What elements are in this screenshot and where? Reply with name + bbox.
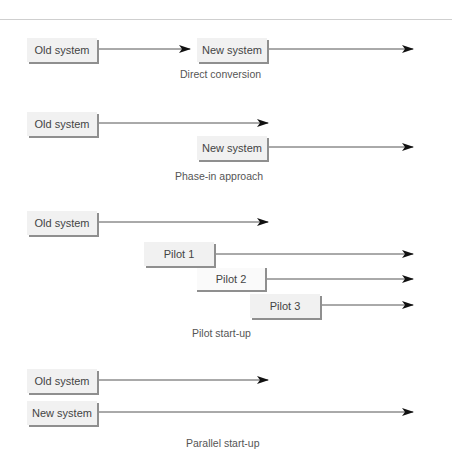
box-label: Old system — [34, 217, 89, 229]
new-system-box: New system — [27, 401, 97, 425]
caption-parallel-start-up: Parallel start-up — [186, 437, 260, 449]
new-system-box: New system — [197, 38, 267, 62]
box-label: Pilot 2 — [216, 273, 247, 285]
box-label: New system — [32, 407, 92, 419]
caption-pilot-start-up: Pilot start-up — [192, 327, 251, 339]
caption-direct-conversion: Direct conversion — [180, 68, 261, 80]
caption-phase-in-approach: Phase-in approach — [175, 170, 263, 182]
old-system-box: Old system — [27, 112, 97, 136]
old-system-box: Old system — [27, 369, 97, 393]
pilot-2-box: Pilot 2 — [197, 268, 267, 292]
pilot-3-box: Pilot 3 — [250, 294, 320, 318]
box-label: Old system — [34, 118, 89, 130]
box-label: Old system — [34, 375, 89, 387]
old-system-box: Old system — [27, 38, 97, 62]
box-label: New system — [202, 142, 262, 154]
pilot-1-box: Pilot 1 — [144, 242, 214, 266]
box-label: New system — [202, 44, 262, 56]
new-system-box: New system — [197, 136, 267, 160]
old-system-box: Old system — [27, 211, 97, 235]
box-label: Pilot 1 — [164, 248, 195, 260]
box-label: Old system — [34, 44, 89, 56]
box-label: Pilot 3 — [270, 300, 301, 312]
